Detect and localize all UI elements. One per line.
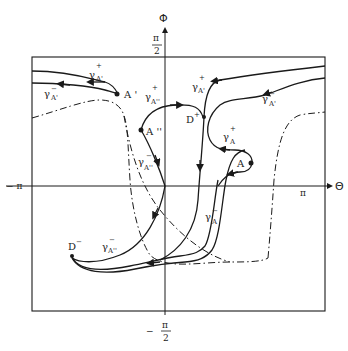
curve-gamma-a2-minus-lower: [72, 186, 165, 262]
tick-pi: π: [300, 188, 306, 198]
label-gamma-a1-minus-left: γ − A': [44, 85, 58, 102]
theta-axis-label: Θ: [335, 180, 344, 193]
svg-text:A: A: [229, 138, 236, 146]
label-gamma-a1-plus-left: γ + A': [89, 62, 103, 83]
label-gamma-a2-plus: γ + A'': [145, 84, 160, 106]
svg-text:−: −: [51, 85, 57, 93]
point-a: [249, 161, 254, 166]
svg-text:−: −: [269, 90, 275, 98]
svg-text:A': A': [50, 94, 58, 102]
label-gamma-a2-minus-upper: γ − A'': [138, 152, 153, 172]
separatrix-curve-right: [268, 112, 325, 258]
svg-text:A: A: [211, 218, 218, 226]
svg-text:A': A': [268, 100, 276, 108]
label-a1: A ': [123, 89, 137, 100]
svg-text:γ: γ: [205, 211, 211, 222]
svg-text:γ: γ: [262, 93, 268, 104]
svg-text:+: +: [152, 84, 158, 92]
phase-portrait-diagram: Θ Φ − π π π 2 − π 2: [0, 0, 348, 351]
tick-minus-pi: − π: [6, 181, 22, 191]
svg-text:A'': A'': [143, 164, 153, 172]
label-gamma-a-plus: γ + A: [223, 125, 236, 146]
svg-text:2: 2: [163, 333, 169, 343]
svg-text:γ: γ: [223, 131, 229, 142]
label-gamma-a1-plus-right: γ + A': [192, 74, 205, 95]
label-a: A: [236, 158, 245, 169]
svg-text:D: D: [68, 241, 76, 252]
arrow-d-minus-bundle: [150, 262, 160, 263]
label-d-minus: D −: [68, 238, 82, 252]
tick-minus-pi-over-2: − π 2: [146, 320, 171, 343]
svg-text:+: +: [96, 62, 102, 70]
svg-text:π: π: [162, 320, 168, 330]
svg-text:2: 2: [154, 46, 160, 56]
label-d-plus: D +: [186, 111, 200, 125]
svg-text:D: D: [186, 114, 194, 125]
svg-text:+: +: [194, 111, 200, 119]
svg-text:γ: γ: [89, 69, 95, 80]
svg-text:π: π: [153, 33, 159, 43]
svg-text:+: +: [230, 125, 236, 133]
svg-text:A': A': [95, 75, 103, 83]
svg-text:−: −: [76, 238, 82, 246]
separatrix-curve-mid: [124, 116, 230, 262]
arrow-gamma-a1-plus-right: [214, 80, 222, 81]
svg-text:−: −: [212, 207, 218, 215]
svg-text:γ: γ: [44, 88, 50, 99]
label-a2: A '': [145, 126, 162, 137]
label-gamma-a1-minus-right: γ − A': [262, 90, 276, 108]
tick-pi-over-2: π 2: [152, 33, 162, 56]
svg-text:A'': A'': [107, 247, 117, 255]
phi-axis-label: Φ: [159, 12, 168, 25]
svg-text:A'': A'': [150, 98, 160, 106]
svg-text:A': A': [197, 87, 205, 95]
svg-text:−: −: [146, 326, 154, 336]
plot-frame: [32, 57, 325, 311]
svg-text:−: −: [109, 236, 115, 244]
svg-text:+: +: [199, 74, 205, 82]
curve-gamma-a2-minus-upper: [141, 130, 165, 186]
point-a1: [115, 92, 120, 97]
label-gamma-a2-minus-lower: γ − A'': [102, 236, 117, 255]
curve-d-minus-bundle-1: [72, 180, 218, 269]
svg-text:−: −: [146, 152, 152, 160]
label-gamma-a-minus: γ − A: [205, 207, 218, 226]
